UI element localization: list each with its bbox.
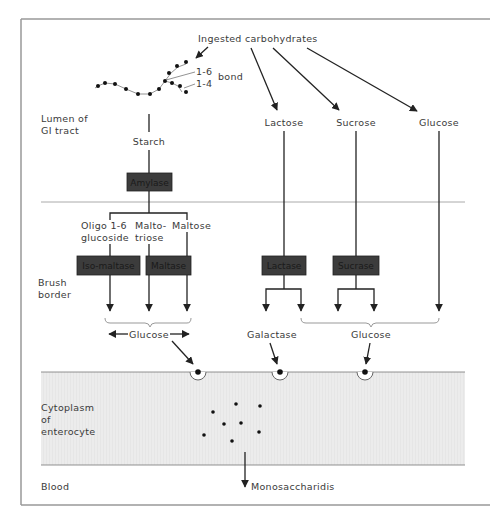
starch-label: Starch (133, 136, 165, 147)
isomaltase-label: Iso-maltase (82, 261, 135, 271)
right-brace (301, 318, 439, 327)
oligo-label-1: Oligo 1-6 (81, 220, 127, 231)
region-cytoplasm-label-1: Cytoplasm (41, 402, 94, 413)
region-cytoplasm-label-3: enterocyte (41, 426, 95, 437)
ingested-carbohydrates-label: Ingested carbohydrates (198, 33, 318, 44)
monosaccharides-label: Monosaccharidis (251, 481, 335, 492)
amylase-label: Amylase (130, 178, 169, 188)
transporter-3-icon (357, 369, 373, 380)
region-brush-label-1: Brush (38, 277, 67, 288)
amylase-branch (110, 213, 187, 220)
left-brace (105, 318, 191, 327)
region-lumen-label-2: GI tract (41, 125, 79, 136)
maltase-label: Maltase (151, 261, 187, 271)
arrow-to-sucrose (273, 48, 339, 110)
lactase-label: Lactase (267, 261, 302, 271)
cytoplasm-band (41, 372, 465, 465)
region-lumen-label-1: Lumen of (41, 113, 88, 124)
region-cytoplasm-label-2: of (41, 414, 51, 425)
glucose-left-to-transporter (172, 341, 193, 364)
lactose-label: Lactose (265, 117, 304, 128)
glucose-right-label: Glucose (351, 329, 391, 340)
oligo-label-2: glucoside (81, 232, 129, 243)
galactose-label: Galactase (247, 329, 297, 340)
sucrase-branch (338, 289, 374, 311)
maltotriose-label-2: triose (135, 232, 164, 243)
maltotriose-label-1: Malto- (135, 220, 167, 231)
galactose-to-transporter (270, 343, 277, 364)
glucose-lumen-label: Glucose (419, 117, 459, 128)
bond-1-4-label: 1-4 (196, 78, 212, 89)
carbohydrate-digestion-diagram: 1-6 1-4 bond Ingested carbohydrates Lume… (0, 0, 490, 522)
glucose-right-to-transporter (366, 343, 370, 364)
glucose-left-label: Glucose (129, 329, 169, 340)
bond-1-6-label: 1-6 (196, 66, 212, 77)
region-brush-label-2: border (38, 289, 71, 300)
maltose-product-label: Maltose (172, 220, 211, 231)
arrow-to-starch (196, 47, 208, 58)
starch-molecule-icon (95, 60, 195, 96)
lactase-branch (266, 289, 301, 311)
sucrase-label: Sucrase (338, 261, 374, 271)
transporter-2-icon (272, 369, 288, 380)
arrow-to-glucose (307, 48, 417, 111)
arrow-to-lactose (251, 48, 277, 110)
region-blood-label: Blood (41, 481, 69, 492)
transporter-1-icon (190, 369, 206, 380)
sucrose-label: Sucrose (336, 117, 376, 128)
bond-word-label: bond (218, 71, 243, 82)
